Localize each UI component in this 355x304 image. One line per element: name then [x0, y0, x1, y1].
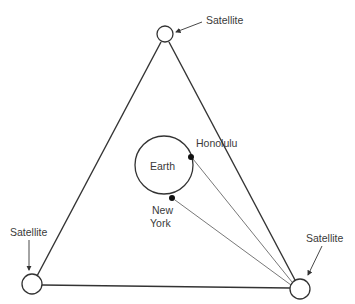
label-newyork-line2: York: [150, 217, 171, 229]
honolulu-dot: [188, 154, 194, 160]
label-satellite-top: Satellite: [206, 14, 243, 26]
satellite-bottomright-icon: [290, 279, 310, 299]
label-satellite-bottomleft: Satellite: [10, 226, 47, 238]
link-newyork: [175, 200, 291, 285]
label-satellite-bottomright: Satellite: [306, 232, 343, 244]
arrow-top-satellite: [176, 22, 202, 32]
label-earth: Earth: [150, 160, 175, 172]
diagram-canvas: [0, 0, 355, 304]
edge-bottom: [42, 285, 290, 288]
satellite-top-icon: [157, 26, 173, 42]
label-honolulu: Honolulu: [196, 137, 237, 149]
label-newyork-line1: New: [152, 204, 173, 216]
edge-top-bottomright: [169, 42, 295, 280]
edge-top-bottomleft: [37, 42, 161, 276]
arrow-bottomright-satellite: [308, 246, 322, 275]
satellite-diagram: Satellite Satellite Satellite Earth Hono…: [0, 0, 355, 304]
satellite-bottomleft-icon: [22, 274, 42, 294]
newyork-dot: [169, 195, 175, 201]
link-honolulu: [193, 159, 292, 282]
